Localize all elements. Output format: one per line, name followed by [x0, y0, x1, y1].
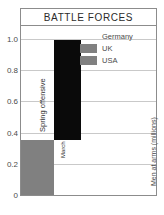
chart-title: BATTLE FORCES [44, 12, 133, 23]
y-tick-1-0: 1.0 [0, 35, 18, 44]
chart-title-box: BATTLE FORCES [20, 8, 157, 26]
y-tick-0-2: 0.2 [0, 160, 18, 169]
legend-label-germany: Germany [102, 32, 133, 41]
y-tick-0-6: 0.6 [0, 97, 18, 106]
annotation-march: March [60, 141, 66, 158]
legend-item-usa: USA [80, 54, 150, 66]
legend-label-usa: USA [102, 56, 117, 65]
legend-item-germany: Germany [80, 30, 150, 42]
annotation-spring-offensive: Spring offensive [38, 78, 47, 132]
gridline-0-4 [21, 133, 156, 134]
gridline-0-8 [21, 70, 156, 71]
legend-item-uk: UK [80, 42, 150, 54]
battle-forces-chart: BATTLE FORCES 1.0 0.8 0.6 0.4 0.2 0 Spri… [0, 0, 164, 215]
legend-swatch-germany-icon [80, 32, 97, 41]
bar-germany [54, 40, 81, 140]
bar-usa [21, 140, 54, 195]
y-tick-0-4: 0.4 [0, 129, 18, 138]
y-axis-label-right: Men at arms (millions) [150, 117, 157, 186]
y-tick-0-8: 0.8 [0, 66, 18, 75]
legend: Germany UK USA [80, 30, 150, 66]
legend-swatch-usa-icon [80, 56, 97, 65]
y-axis-tick-labels: 1.0 0.8 0.6 0.4 0.2 0 [0, 26, 18, 196]
legend-label-uk: UK [102, 44, 112, 53]
legend-swatch-uk-icon [80, 44, 97, 53]
y-tick-0: 0 [0, 191, 18, 200]
